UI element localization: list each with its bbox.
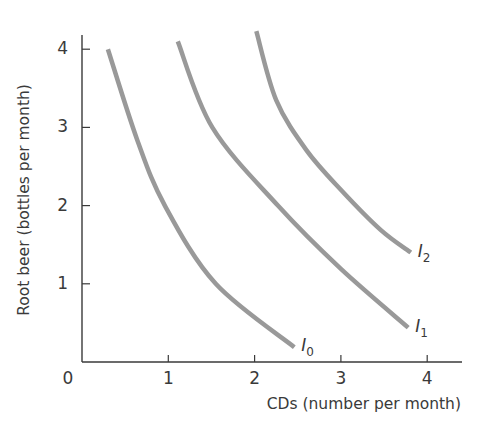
x-axis-ticks	[168, 355, 427, 362]
x-tick-label: 2	[240, 368, 270, 388]
y-tick-label: 3	[38, 116, 68, 136]
curve-label-i0: I0	[301, 335, 314, 359]
curve-label-i2: I2	[418, 241, 431, 265]
curve-i0	[108, 49, 294, 347]
y-axis-label: Root beer (bottles per month)	[15, 84, 33, 316]
x-axis-label: CDs (number per month)	[267, 395, 461, 413]
x-tick-label: 1	[153, 368, 183, 388]
indifference-curves	[108, 31, 411, 347]
curve-label-i1: I1	[415, 316, 428, 340]
curve-i2	[256, 31, 410, 252]
y-axis-ticks	[82, 49, 90, 284]
y-tick-label: 1	[38, 273, 68, 293]
x-tick-label: 4	[412, 368, 442, 388]
x-tick-label: 3	[326, 368, 356, 388]
y-tick-label: 4	[38, 38, 68, 58]
y-tick-label: 2	[38, 195, 68, 215]
x-tick-label: 0	[53, 368, 83, 388]
curve-i1	[178, 41, 408, 327]
